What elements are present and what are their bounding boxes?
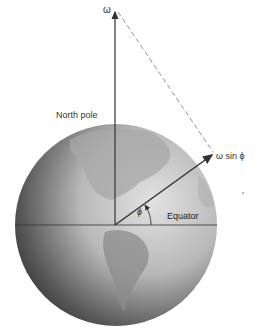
north-pole-label: North pole bbox=[56, 110, 98, 120]
equator-label: Equator bbox=[167, 211, 199, 221]
omega-sin-phi-label: ω sin ϕ bbox=[216, 151, 245, 161]
phi-label: ϕ bbox=[137, 207, 142, 217]
omega-label: ω bbox=[103, 4, 111, 15]
diagram-canvas bbox=[0, 0, 265, 335]
speck bbox=[242, 192, 244, 194]
